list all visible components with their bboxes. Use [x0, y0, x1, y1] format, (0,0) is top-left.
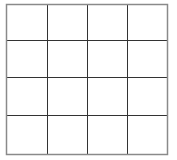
grid-cell-r1-c3[interactable]: [127, 40, 167, 77]
grid-cell-r1-c2[interactable]: [87, 40, 127, 77]
grid-cell-r0-c0[interactable]: [6, 4, 47, 40]
grid-cell-r0-c1[interactable]: [47, 4, 87, 40]
grid-cell-r2-c3[interactable]: [127, 77, 167, 115]
grid-cell-r3-c3[interactable]: [127, 115, 167, 154]
grid-cell-r1-c0[interactable]: [6, 40, 47, 77]
grid-cell-r2-c0[interactable]: [6, 77, 47, 115]
grid-board: [0, 0, 177, 160]
grid-cell-r0-c2[interactable]: [87, 4, 127, 40]
grid-cell-r2-c2[interactable]: [87, 77, 127, 115]
grid-cell-r1-c1[interactable]: [47, 40, 87, 77]
grid-cell-r2-c1[interactable]: [47, 77, 87, 115]
grid-cell-r3-c0[interactable]: [6, 115, 47, 154]
grid-cell-r3-c1[interactable]: [47, 115, 87, 154]
grid-cell-r0-c3[interactable]: [127, 4, 167, 40]
grid-cell-r3-c2[interactable]: [87, 115, 127, 154]
